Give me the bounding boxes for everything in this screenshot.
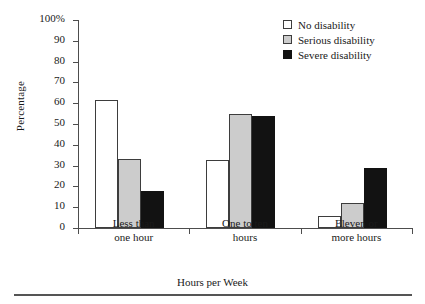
y-axis-tick-label: 100% (25, 12, 65, 24)
y-axis-tick-label: 70 (25, 74, 65, 86)
y-axis-tick-label: 90 (25, 33, 65, 45)
bar-chart-figure: Percentage 0102030405060708090100% No di… (0, 0, 425, 304)
chart-legend: No disability Serious disability Severe … (283, 17, 375, 62)
y-axis-tick-label: 80 (25, 54, 65, 66)
bar (95, 100, 118, 228)
x-axis-tick (412, 228, 413, 234)
bar-group (78, 20, 189, 228)
legend-label: Serious disability (298, 34, 375, 46)
x-axis-title: Hours per Week (0, 276, 425, 288)
legend-item-serious-disability: Serious disability (283, 32, 375, 47)
white-square-icon (283, 20, 292, 29)
bar (229, 114, 252, 228)
category-label-line: Less than (79, 216, 189, 230)
y-axis-tick-label: 40 (25, 137, 65, 149)
legend-label: No disability (298, 19, 355, 31)
y-axis-tick-label: 10 (25, 199, 65, 211)
y-axis-tick-label: 30 (25, 158, 65, 170)
category-label-line: more hours (301, 230, 411, 244)
category-label-line: hours (190, 230, 300, 244)
y-axis-tick-label: 20 (25, 178, 65, 190)
category-label-line: One to ten (190, 216, 300, 230)
x-axis-category-label: One to tenhours (190, 216, 300, 244)
legend-label: Severe disability (298, 49, 372, 61)
y-axis-tick-label: 50 (25, 116, 65, 128)
footer-rule (14, 294, 412, 296)
legend-item-severe-disability: Severe disability (283, 47, 375, 62)
gray-square-icon (283, 35, 292, 44)
bar (252, 116, 275, 228)
x-axis-category-label: Less thanone hour (79, 216, 189, 244)
y-axis-tick-label: 0 (25, 220, 65, 232)
black-square-icon (283, 50, 292, 59)
x-axis-category-label: Eleven ormore hours (301, 216, 411, 244)
y-axis-tick-label: 60 (25, 95, 65, 107)
legend-item-no-disability: No disability (283, 17, 375, 32)
category-label-line: one hour (79, 230, 189, 244)
category-label-line: Eleven or (301, 216, 411, 230)
